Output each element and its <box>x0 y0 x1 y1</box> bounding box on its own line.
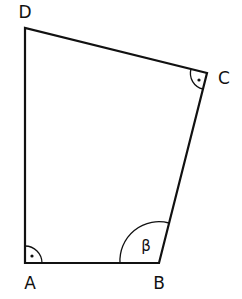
right-angle-mark-a <box>25 246 42 263</box>
quadrilateral-abcd <box>25 28 207 263</box>
vertex-label-b: B <box>153 273 165 293</box>
vertex-label-c: C <box>218 68 230 88</box>
right-angle-dot-a <box>30 254 33 257</box>
vertex-label-d: D <box>18 2 31 22</box>
angle-label-beta: β <box>141 237 151 255</box>
quadrilateral-diagram: β D C A B <box>0 0 242 299</box>
right-angle-dot-c <box>197 78 200 81</box>
vertex-label-a: A <box>24 273 36 293</box>
